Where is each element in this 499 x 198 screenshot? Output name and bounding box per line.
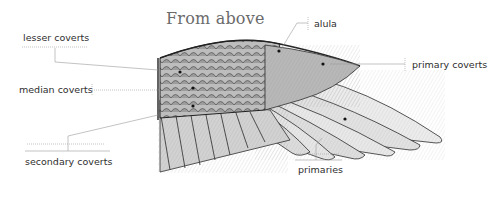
label-primaries: primaries (298, 164, 343, 175)
label-secondary-coverts: secondary coverts (25, 156, 112, 167)
wing-illustration (0, 0, 499, 198)
label-alula: alula (314, 18, 337, 29)
label-median-coverts: median coverts (19, 84, 93, 95)
label-primary-coverts: primary coverts (412, 59, 487, 70)
label-lesser-coverts: lesser coverts (23, 32, 89, 43)
